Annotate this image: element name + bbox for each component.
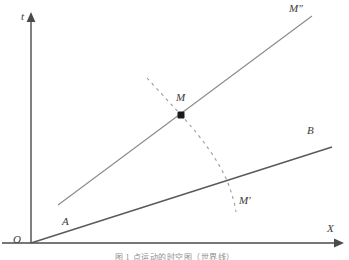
diagram-svg (0, 0, 349, 260)
t-axis-arrowhead (27, 12, 36, 22)
figure-caption: 图 1 点运动的时空图（世界线） (0, 251, 349, 260)
x-axis-label: X (327, 223, 334, 234)
point-m-marker (178, 112, 185, 119)
point-m-prime-label: M′ (239, 195, 251, 206)
worldline-ob (31, 147, 332, 243)
t-axis-label: t (21, 11, 24, 22)
point-m-label: M (176, 92, 185, 103)
point-a-label: A (62, 216, 69, 227)
worldline-m2 (58, 16, 312, 205)
x-axis-arrowhead (334, 239, 344, 248)
diagram-canvas: t X O A B M M′ M″ 图 1 点运动的时空图（世界线） (0, 0, 349, 260)
origin-label: O (13, 234, 21, 245)
point-m-double-prime-label: M″ (289, 3, 303, 14)
point-b-label: B (307, 125, 314, 136)
